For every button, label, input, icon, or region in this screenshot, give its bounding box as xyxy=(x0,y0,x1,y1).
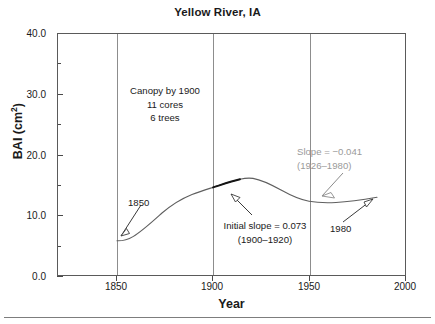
y-tick-major-0 xyxy=(57,276,63,277)
annotation-late-slope-line1: Slope = −0.041 xyxy=(297,145,362,159)
annotation-canopy-note: Canopy by 1900 11 cores 6 trees xyxy=(117,84,213,125)
annotation-start-year-label: 1850 xyxy=(128,196,149,210)
footer-divider xyxy=(4,317,431,318)
annotation-canopy-line1: Canopy by 1900 xyxy=(117,84,213,98)
y-tick-label-40: 40.0 xyxy=(0,28,46,39)
annotation-late-slope-note: Slope = −0.041 (1926–1980) xyxy=(297,145,362,172)
chart-figure: Yellow River, IA BAI (cm2) 40.0 30.0 20.… xyxy=(0,0,435,324)
annotation-end-year-label: 1980 xyxy=(330,222,351,236)
annotation-canopy-line2: 11 cores xyxy=(117,98,213,112)
x-tick-label-2000: 2000 xyxy=(375,281,435,292)
y-tick-label-20: 20.0 xyxy=(0,149,46,160)
y-axis-label-exponent: 2 xyxy=(9,107,19,112)
annotation-initial-slope-note: Initial slope = 0.073 (1900–1920) xyxy=(205,219,325,246)
gridline-1850 xyxy=(117,34,118,275)
y-tick-label-30: 30.0 xyxy=(0,88,46,99)
x-tick-label-1850: 1850 xyxy=(86,281,146,292)
x-tick-label-1900: 1900 xyxy=(182,281,242,292)
annotation-initial-slope-line1: Initial slope = 0.073 xyxy=(205,219,325,233)
annotation-canopy-line3: 6 trees xyxy=(117,111,213,125)
y-tick-label-10: 10.0 xyxy=(0,210,46,221)
y-tick-label-0: 0.0 xyxy=(0,271,46,282)
x-axis-label: Year xyxy=(57,297,406,311)
annotation-late-slope-line2: (1926–1980) xyxy=(297,159,362,173)
chart-title: Yellow River, IA xyxy=(0,6,435,18)
y-axis-label-paren: ) xyxy=(11,103,25,107)
y-axis-label: BAI (cm2) xyxy=(9,31,25,231)
annotation-initial-slope-line2: (1900–1920) xyxy=(205,233,325,247)
x-tick-label-1950: 1950 xyxy=(279,281,339,292)
